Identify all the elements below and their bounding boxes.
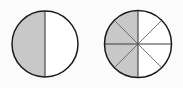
fraction-circles-figure: [0, 0, 183, 88]
fraction-circles-canvas: [0, 0, 183, 88]
fraction-circle-right: [105, 11, 172, 78]
fraction-circle-left: [12, 11, 78, 77]
